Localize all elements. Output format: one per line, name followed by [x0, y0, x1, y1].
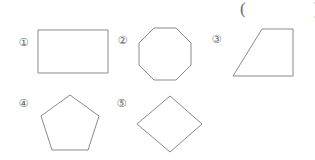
shape-trapezoid-outline — [233, 29, 293, 76]
option-label-4: ④ — [16, 96, 31, 111]
option-label-1: ① — [16, 35, 31, 50]
shape-octagon — [139, 28, 191, 80]
option-label-5: ⑤ — [114, 96, 129, 111]
worksheet-canvas: ( ) ① ② ③ ④ ⑤ — [0, 0, 315, 160]
shape-rhombus-outline — [137, 96, 202, 152]
shape-pentagon — [41, 95, 99, 150]
shape-rhombus — [137, 96, 202, 152]
shape-rectangle — [38, 30, 108, 73]
option-label-3: ③ — [209, 32, 224, 47]
answer-blank-parentheses[interactable]: ( ) — [240, 0, 310, 18]
shape-trapezoid — [233, 29, 293, 76]
option-label-2: ② — [115, 33, 130, 48]
shape-pentagon-outline — [41, 95, 99, 150]
shape-rectangle-outline — [38, 30, 108, 73]
shape-octagon-outline — [139, 28, 191, 80]
